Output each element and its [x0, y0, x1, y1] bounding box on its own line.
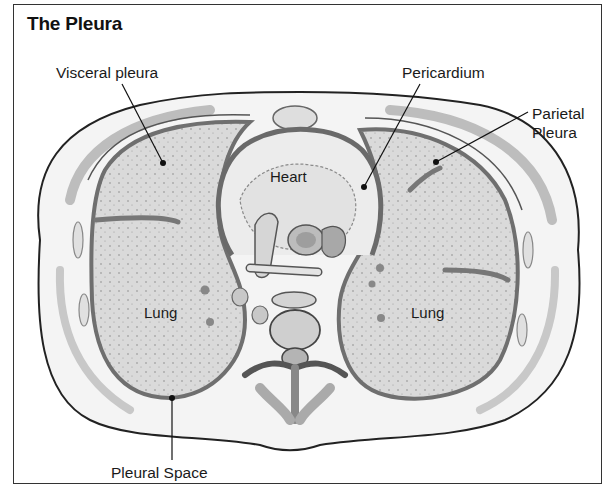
label-parietal-pleura: Parietal Pleura [532, 104, 585, 142]
label-parietal-pleura-line1: Parietal [532, 104, 585, 123]
label-parietal-pleura-line2: Pleura [532, 123, 585, 142]
label-visceral-pleura: Visceral pleura [56, 63, 158, 82]
label-heart: Heart [270, 167, 307, 186]
label-pericardium: Pericardium [402, 63, 485, 82]
label-lung-right: Lung [411, 303, 444, 322]
label-lung-left: Lung [144, 303, 177, 322]
label-pleural-space: Pleural Space [111, 463, 208, 482]
